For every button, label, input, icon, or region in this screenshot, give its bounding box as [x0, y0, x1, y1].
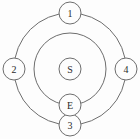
node-e[interactable]: E — [59, 94, 81, 116]
node-2[interactable]: 2 — [3, 58, 25, 80]
node-1-label: 1 — [68, 8, 73, 19]
node-s[interactable]: S — [59, 58, 81, 80]
diagram-canvas: 1 2 3 4 E S — [0, 0, 140, 139]
node-s-label: S — [67, 64, 73, 75]
node-3-label: 3 — [68, 120, 73, 131]
orbit-diagram: 1 2 3 4 E S — [0, 0, 140, 139]
node-3[interactable]: 3 — [59, 114, 81, 136]
node-4-label: 4 — [124, 64, 129, 75]
node-1[interactable]: 1 — [59, 2, 81, 24]
node-2-label: 2 — [12, 64, 17, 75]
node-e-label: E — [67, 100, 73, 111]
node-4[interactable]: 4 — [115, 58, 137, 80]
